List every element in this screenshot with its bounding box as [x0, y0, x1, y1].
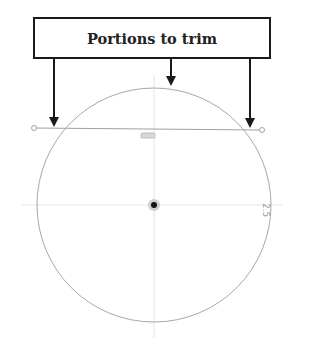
line-endpoint-right[interactable]: [260, 128, 265, 133]
left-trim-arrow: [49, 59, 59, 127]
center-point[interactable]: [151, 202, 157, 208]
trim-line[interactable]: [34, 128, 262, 130]
right-trim-arrow: [245, 59, 255, 128]
horizontal-constraint-icon[interactable]: [141, 133, 155, 138]
top-arc-arrow: [166, 59, 176, 86]
dimension-label: 2.5: [261, 203, 271, 217]
line-endpoint-left[interactable]: [32, 126, 37, 131]
sketch-canvas: [0, 0, 320, 349]
